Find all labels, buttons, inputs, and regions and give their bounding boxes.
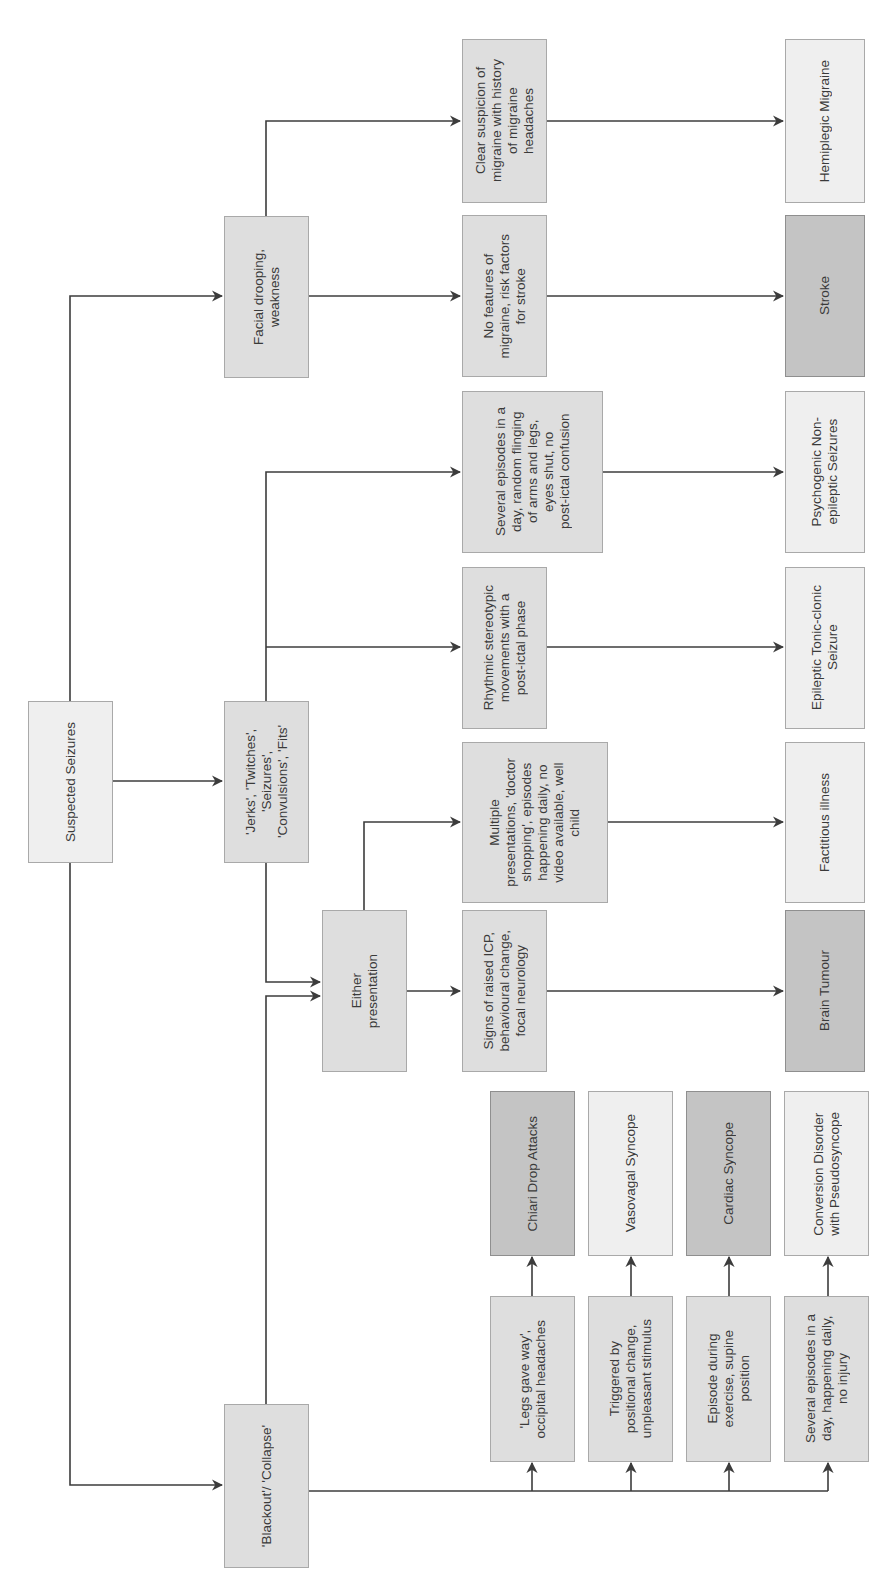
node-jerks-twitches: 'Jerks', 'Twitches', 'Seizures', 'Convul…	[224, 701, 309, 863]
node-label: Either presentation	[349, 954, 381, 1028]
node-label: Brain Tumour	[817, 950, 833, 1031]
node-chiari-drop-attacks: Chiari Drop Attacks	[490, 1091, 575, 1256]
node-label: 'Legs gave way', occipital headaches	[517, 1320, 549, 1439]
node-legs-gave-way: 'Legs gave way', occipital headaches	[490, 1296, 575, 1462]
node-blackout-collapse: 'Blackout'/ 'Collapse'	[224, 1404, 309, 1568]
node-label: Triggered by positional change, unpleasa…	[607, 1319, 655, 1438]
node-signs-raised-icp: Signs of raised ICP, behavioural change,…	[462, 910, 547, 1072]
node-stroke: Stroke	[785, 215, 865, 377]
node-label: Clear suspicion of migraine with history…	[473, 59, 537, 182]
node-cardiac-syncope: Cardiac Syncope	[686, 1091, 771, 1256]
node-label: Episode during exercise, supine position	[705, 1330, 753, 1428]
node-epileptic-tonic-clonic: Epileptic Tonic-clonic Seizure	[785, 567, 865, 729]
node-several-episodes-daily: Several episodes in a day, happening dai…	[784, 1296, 869, 1462]
node-rhythmic-stereotypic: Rhythmic stereotypic movements with a po…	[462, 567, 547, 729]
node-label: Vasovagal Syncope	[623, 1114, 639, 1232]
node-factitious-illness: Factitious illness	[785, 742, 865, 903]
node-label: Signs of raised ICP, behavioural change,…	[481, 930, 529, 1052]
node-label: Epileptic Tonic-clonic Seizure	[809, 585, 841, 710]
node-positional-trigger: Triggered by positional change, unpleasa…	[588, 1296, 673, 1462]
node-label: Factitious illness	[817, 773, 833, 872]
node-label: Several episodes in a day, happening dai…	[803, 1314, 851, 1443]
node-suspected-seizures: Suspected Seizures	[28, 701, 113, 863]
node-label: Multiple presentations, 'doctor shopping…	[487, 758, 583, 887]
node-either-presentation: Either presentation	[322, 910, 407, 1072]
node-label: Several episodes in a day, random flingi…	[493, 407, 573, 536]
node-facial-drooping: Facial drooping, weakness	[224, 216, 309, 378]
node-label: Rhythmic stereotypic movements with a po…	[481, 585, 529, 710]
node-brain-tumour: Brain Tumour	[785, 910, 865, 1072]
node-label: Stroke	[817, 276, 833, 315]
node-label: 'Blackout'/ 'Collapse'	[259, 1425, 275, 1547]
node-vasovagal-syncope: Vasovagal Syncope	[588, 1091, 673, 1256]
node-label: Cardiac Syncope	[721, 1122, 737, 1225]
node-psychogenic-non-epileptic: Psychogenic Non- epileptic Seizures	[785, 391, 865, 553]
node-multiple-presentations: Multiple presentations, 'doctor shopping…	[462, 742, 608, 903]
node-episode-during-exercise: Episode during exercise, supine position	[686, 1296, 771, 1462]
node-label: Conversion Disorder with Pseudosyncope	[811, 1112, 843, 1236]
node-conversion-disorder: Conversion Disorder with Pseudosyncope	[784, 1091, 869, 1256]
node-label: Psychogenic Non- epileptic Seizures	[809, 417, 841, 527]
node-label: Suspected Seizures	[63, 722, 79, 842]
node-hemiplegic-migraine: Hemiplegic Migraine	[785, 39, 865, 203]
node-several-episodes-flinging: Several episodes in a day, random flingi…	[462, 391, 603, 553]
node-label: Chiari Drop Attacks	[525, 1116, 541, 1232]
node-label: No features of migraine, risk factors fo…	[481, 234, 529, 359]
flowchart: Suspected Seizures Facial drooping, weak…	[0, 0, 873, 1592]
node-label: Facial drooping, weakness	[251, 249, 283, 345]
node-label: Hemiplegic Migraine	[817, 60, 833, 182]
node-label: 'Jerks', 'Twitches', 'Seizures', 'Convul…	[243, 725, 291, 838]
node-no-features-migraine: No features of migraine, risk factors fo…	[462, 215, 547, 377]
node-clear-migraine: Clear suspicion of migraine with history…	[462, 39, 547, 203]
